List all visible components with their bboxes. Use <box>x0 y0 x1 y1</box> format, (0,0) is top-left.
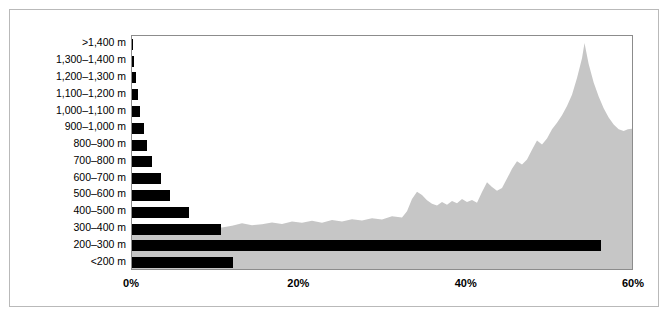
y-axis-tick-label: <200 m <box>0 256 126 267</box>
bar <box>132 173 161 184</box>
y-axis-tick-label: 600–700 m <box>0 172 126 183</box>
y-axis-tick-label: 800–900 m <box>0 138 126 149</box>
y-axis-tick-label: 900–1,000 m <box>0 121 126 132</box>
bar <box>132 190 170 201</box>
y-axis-tick-label: 1,100–1,200 m <box>0 88 126 99</box>
y-axis-tick-label: 1,200–1,300 m <box>0 71 126 82</box>
bar <box>132 72 136 83</box>
elevation-distribution-chart: >1,400 m1,300–1,400 m1,200–1,300 m1,100–… <box>0 0 669 317</box>
y-axis-tick-label: 1,300–1,400 m <box>0 54 126 65</box>
bar <box>132 39 133 50</box>
y-axis-tick-label: 500–600 m <box>0 188 126 199</box>
bar <box>132 106 140 117</box>
y-axis-tick-label: >1,400 m <box>0 37 126 48</box>
x-axis-labels: 0%20%40%60% <box>0 276 669 296</box>
bars-layer <box>132 36 632 269</box>
bar <box>132 123 144 134</box>
x-axis-tick-label: 20% <box>287 276 309 290</box>
y-axis-tick-label: 700–800 m <box>0 155 126 166</box>
plot-area <box>131 35 633 270</box>
x-axis-tick-label: 0% <box>123 276 139 290</box>
bar <box>132 89 138 100</box>
bar <box>132 224 221 235</box>
y-axis-tick-label: 300–400 m <box>0 222 126 233</box>
x-axis-tick-label: 40% <box>455 276 477 290</box>
bar <box>132 257 233 268</box>
bar <box>132 240 601 251</box>
y-axis-tick-label: 1,000–1,100 m <box>0 105 126 116</box>
y-axis-tick-label: 400–500 m <box>0 205 126 216</box>
x-axis-tick-label: 60% <box>622 276 644 290</box>
figure-container: >1,400 m1,300–1,400 m1,200–1,300 m1,100–… <box>0 0 669 317</box>
y-axis-tick-label: 200–300 m <box>0 239 126 250</box>
bar <box>132 56 134 67</box>
bar <box>132 140 147 151</box>
y-axis-labels: >1,400 m1,300–1,400 m1,200–1,300 m1,100–… <box>0 35 126 270</box>
bar <box>132 156 152 167</box>
bar <box>132 207 189 218</box>
